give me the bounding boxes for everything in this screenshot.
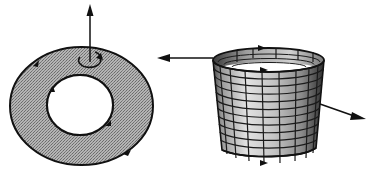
- cylinder-figure: [157, 45, 366, 166]
- diagram-svg: [0, 0, 375, 178]
- annulus-figure: [10, 4, 153, 165]
- diagram-canvas: [0, 0, 375, 178]
- cylinder-normal-left-arrowhead-icon: [157, 54, 170, 62]
- annulus-inner-boundary: [47, 75, 113, 135]
- annulus-normal-arrowhead-icon: [87, 4, 94, 16]
- cylinder-normal-right-arrowhead-icon: [350, 112, 366, 120]
